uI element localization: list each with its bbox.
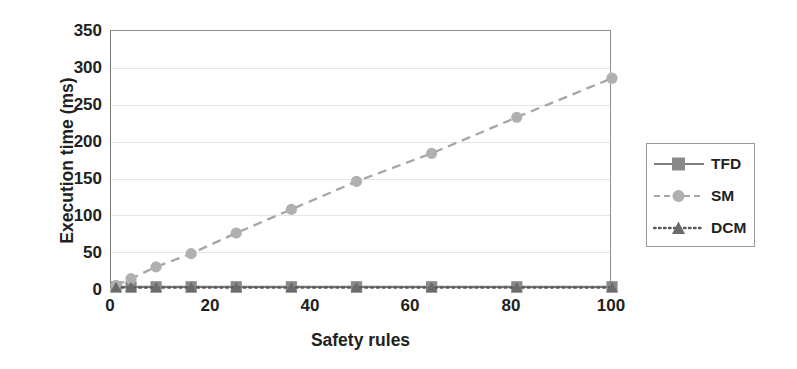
y-tick-label: 250 <box>74 95 102 114</box>
legend-swatch-dcm <box>653 219 705 237</box>
figure-canvas: 350 300 250 200 150 100 50 0 Execution t… <box>0 0 797 369</box>
data-point-marker <box>511 112 522 123</box>
data-point-marker <box>150 261 161 272</box>
legend-label-sm: SM <box>711 187 734 205</box>
data-point-marker <box>186 248 197 259</box>
x-axis-title: Safety rules <box>110 330 611 351</box>
x-tick-label: 40 <box>280 296 340 316</box>
y-tick-label: 50 <box>83 243 102 262</box>
legend-swatch-sm <box>653 187 705 205</box>
y-tick-label: 300 <box>74 58 102 77</box>
x-tick-label: 80 <box>481 296 541 316</box>
data-point-marker <box>351 176 362 187</box>
data-point-marker <box>426 148 437 159</box>
plot-area <box>110 30 611 288</box>
y-tick-label: 100 <box>74 206 102 225</box>
legend-item-sm[interactable]: SM <box>653 185 734 207</box>
data-series-layer <box>111 31 612 289</box>
chart-figure: 350 300 250 200 150 100 50 0 Execution t… <box>0 0 797 369</box>
data-point-marker <box>286 204 297 215</box>
data-point-marker <box>606 73 617 84</box>
legend-label-dcm: DCM <box>711 219 746 237</box>
legend-label-tfd: TFD <box>711 155 741 173</box>
series-sm <box>110 73 617 291</box>
x-tick-label: 60 <box>380 296 440 316</box>
data-point-marker <box>231 227 242 238</box>
legend-swatch-tfd <box>653 155 705 173</box>
y-axis-title: Execution time (ms) <box>57 36 78 286</box>
legend: TFD SM DCM <box>646 143 755 247</box>
x-tick-label: 20 <box>180 296 240 316</box>
legend-item-dcm[interactable]: DCM <box>653 217 746 239</box>
x-tick-label: 100 <box>581 296 641 316</box>
y-tick-label: 200 <box>74 132 102 151</box>
y-tick-label: 350 <box>74 21 102 40</box>
y-tick-label: 150 <box>74 169 102 188</box>
legend-item-tfd[interactable]: TFD <box>653 153 741 175</box>
x-tick-label: 0 <box>80 296 140 316</box>
